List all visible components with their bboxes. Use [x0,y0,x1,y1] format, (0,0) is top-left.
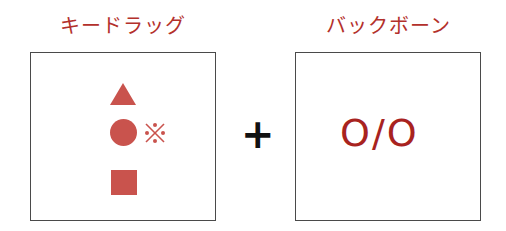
left-title: キードラッグ [30,10,216,39]
triangle-icon [110,83,136,105]
right-title: バックボーン [295,10,481,39]
key-drug-box [30,52,216,221]
backbone-notation: O/O [340,111,419,155]
backbone-box: O/O [295,52,481,221]
square-icon [111,170,137,195]
plus-operator: + [241,114,275,154]
kome-mark-icon [143,121,167,145]
circle-icon [110,119,137,146]
